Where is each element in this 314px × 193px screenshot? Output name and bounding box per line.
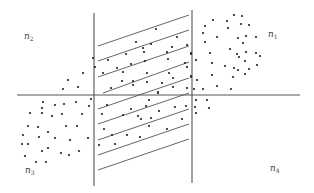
data-point (195, 59, 197, 61)
data-point (125, 53, 127, 55)
hatch-line (98, 46, 189, 77)
region-label-n3: n3 (25, 166, 35, 176)
region-label-n2: n2 (24, 32, 34, 42)
data-point (47, 147, 49, 149)
data-point (157, 92, 159, 94)
data-point (54, 104, 56, 106)
axes (17, 10, 300, 186)
data-point (107, 59, 109, 61)
data-point (143, 51, 145, 53)
data-point (92, 57, 94, 59)
data-point (82, 72, 84, 74)
data-point (237, 69, 239, 71)
data-point (232, 76, 234, 78)
data-point (148, 125, 150, 127)
data-point (255, 52, 257, 54)
data-point (137, 115, 139, 117)
data-point (211, 62, 213, 64)
hatch-line (98, 15, 189, 46)
data-point (224, 65, 226, 67)
hatch-line (98, 78, 189, 109)
data-point (42, 101, 44, 103)
data-point (41, 107, 43, 109)
data-point (237, 37, 239, 39)
data-point (227, 27, 229, 29)
data-point (242, 42, 244, 44)
data-point (193, 88, 195, 90)
data-point (38, 136, 40, 138)
data-point (65, 125, 67, 127)
data-point (216, 36, 218, 38)
data-point (196, 79, 198, 81)
data-point (236, 53, 238, 55)
data-point (194, 106, 196, 108)
data-point (63, 103, 65, 105)
data-point (204, 41, 206, 43)
data-point (47, 131, 49, 133)
data-point (102, 72, 104, 74)
data-point (145, 105, 147, 107)
data-point (155, 28, 157, 30)
data-point (37, 126, 39, 128)
data-point (150, 43, 152, 45)
data-point (150, 117, 152, 119)
data-point (78, 150, 80, 152)
data-point (161, 82, 163, 84)
data-point (111, 134, 113, 136)
data-point (181, 118, 183, 120)
data-point (132, 84, 134, 86)
data-point (171, 46, 173, 48)
data-point (60, 152, 62, 154)
data-point (27, 143, 29, 145)
data-point (229, 48, 231, 50)
data-point (148, 99, 150, 101)
data-point (122, 71, 124, 73)
data-point (244, 60, 246, 62)
data-point (142, 47, 144, 49)
data-point (168, 72, 170, 74)
data-point (116, 67, 118, 69)
data-point (184, 62, 186, 64)
data-point (144, 60, 146, 62)
data-point (195, 112, 197, 114)
data-point (166, 51, 168, 53)
data-point (135, 41, 137, 43)
data-point (130, 63, 132, 65)
data-point (186, 44, 188, 46)
data-point (202, 88, 204, 90)
label-subscript: 3 (31, 169, 35, 176)
data-point (54, 137, 56, 139)
data-point (245, 35, 247, 37)
data-point (45, 161, 47, 163)
data-point (248, 24, 250, 26)
data-point (244, 73, 246, 75)
data-point (255, 36, 257, 38)
data-point (174, 106, 176, 108)
data-point (172, 86, 174, 88)
data-point (172, 77, 174, 79)
data-point (126, 134, 128, 136)
data-point (90, 98, 92, 100)
data-point (67, 79, 69, 81)
data-point (226, 20, 228, 22)
data-point (103, 128, 105, 130)
data-point (230, 88, 232, 90)
data-point (233, 14, 235, 16)
hatched-region (98, 15, 189, 170)
data-point (185, 105, 187, 107)
data-point (27, 125, 29, 127)
data-point (75, 101, 77, 103)
data-point (256, 64, 258, 66)
data-point (241, 15, 243, 17)
data-point (146, 81, 148, 83)
data-point (248, 68, 250, 70)
data-point (81, 113, 83, 115)
data-point (209, 52, 211, 54)
data-point (61, 113, 63, 115)
data-point (106, 104, 108, 106)
label-subscript: 2 (30, 35, 34, 42)
data-point (51, 115, 53, 117)
hatch-line (98, 93, 189, 124)
data-point (190, 53, 192, 55)
scatter-diagram (0, 0, 314, 193)
